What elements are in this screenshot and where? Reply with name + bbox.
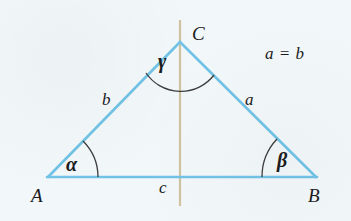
relation-annotation: a = b — [265, 45, 304, 62]
angle-arc-beta — [262, 139, 277, 177]
angle-arc-alpha — [83, 141, 98, 177]
vertex-label-A: A — [31, 186, 43, 205]
side-label-b: b — [102, 91, 111, 108]
side-label-a: a — [245, 91, 254, 108]
vertex-label-C: C — [192, 24, 205, 43]
geometry-diagram: A B C a b c α β γ a = b — [0, 0, 351, 221]
diagram-canvas — [0, 0, 351, 221]
side-label-c: c — [159, 179, 167, 196]
angle-label-alpha: α — [66, 154, 77, 174]
angle-label-gamma: γ — [158, 51, 166, 71]
vertex-label-B: B — [308, 186, 320, 205]
angle-label-beta: β — [277, 150, 287, 170]
